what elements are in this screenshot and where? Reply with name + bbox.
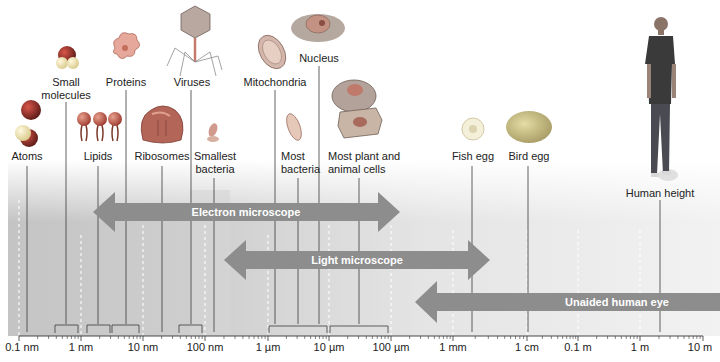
size-scale-diagram: Atoms Small molecules Lipids Proteins Ri…: [0, 0, 720, 362]
tick-label: 10 nm: [128, 341, 159, 353]
cell-icon: [332, 80, 382, 138]
label-ribosomes: Ribosomes: [134, 150, 189, 163]
label-mitochondria: Mitochondria: [244, 76, 307, 89]
tick-label: 0.1 nm: [5, 341, 39, 353]
label-smallest-bacteria-line1: Smallest: [194, 150, 236, 162]
virus-icon: [167, 6, 222, 76]
tick-label: 10 µm: [314, 341, 345, 353]
tick-label: 0.1 m: [564, 341, 592, 353]
label-light-microscope: Light microscope: [311, 254, 403, 266]
label-most-bacteria-line2: bacteria: [281, 163, 320, 175]
small-bacterium-icon: [207, 122, 219, 142]
fish-egg-icon: [462, 118, 484, 140]
label-small-molecules-line1: Small: [52, 76, 80, 88]
nucleus-icon: [291, 14, 345, 42]
label-most-bacteria: Most bacteria: [281, 150, 320, 176]
ribosome-icon: [141, 106, 183, 143]
mitochondrion-icon: [253, 30, 292, 73]
label-lipids: Lipids: [84, 150, 113, 163]
label-cells-line1: Most plant and: [328, 150, 400, 162]
label-viruses: Viruses: [174, 76, 210, 89]
bird-egg-icon: [506, 111, 552, 143]
label-nucleus: Nucleus: [299, 52, 339, 65]
label-fish-egg: Fish egg: [452, 150, 494, 163]
label-smallest-bacteria-line2: bacteria: [195, 163, 234, 175]
tick-label: 1 cm: [515, 341, 539, 353]
label-electron-microscope: Electron microscope: [192, 206, 301, 218]
tick-label: 100 µm: [373, 341, 410, 353]
molecule-icon: [56, 46, 79, 69]
label-small-molecules: Small molecules: [41, 76, 91, 102]
label-smallest-bacteria: Smallest bacteria: [194, 150, 236, 176]
label-bird-egg: Bird egg: [509, 150, 550, 163]
label-small-molecules-line2: molecules: [41, 89, 91, 101]
label-atoms: Atoms: [11, 150, 42, 163]
tick-label: 100 nm: [187, 341, 224, 353]
tick-label: 1 µm: [256, 341, 281, 353]
label-cells-line2: animal cells: [328, 163, 385, 175]
label-cells: Most plant and animal cells: [328, 150, 400, 176]
tick-label: 1 mm: [439, 341, 467, 353]
log-axis: [19, 336, 703, 341]
label-most-bacteria-line1: Most: [281, 150, 305, 162]
tick-label: 1 nm: [69, 341, 93, 353]
lipid-icon: [77, 112, 122, 141]
tick-label: 1 m: [631, 341, 649, 353]
tick-label: 10 m: [688, 341, 712, 353]
label-proteins: Proteins: [106, 76, 146, 89]
label-unaided-human-eye: Unaided human eye: [565, 296, 669, 308]
label-human-height: Human height: [626, 187, 695, 200]
human-icon: [645, 17, 678, 181]
protein-icon: [113, 33, 139, 59]
bacterium-icon: [284, 112, 305, 142]
